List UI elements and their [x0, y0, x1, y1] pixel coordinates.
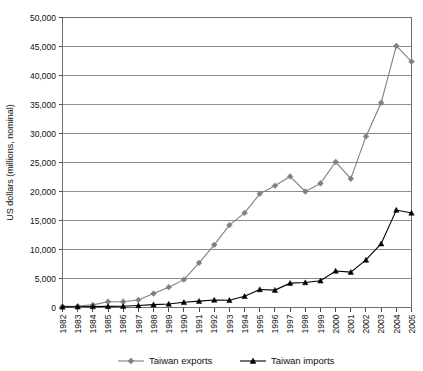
- y-tick-label: 40,000: [30, 71, 56, 81]
- y-tick-label: 45,000: [30, 42, 56, 52]
- x-tick-label: 1992: [209, 314, 219, 333]
- legend-item-exports[interactable]: Taiwan exports: [118, 355, 213, 366]
- series-line: [63, 210, 412, 307]
- y-tick-label: 20,000: [30, 187, 56, 197]
- data-series-group: [60, 43, 415, 309]
- legend-item-imports[interactable]: Taiwan imports: [240, 355, 335, 366]
- legend-label: Taiwan exports: [149, 355, 213, 366]
- x-tick-label: 1986: [118, 314, 128, 333]
- x-tick-label: 1982: [58, 314, 68, 333]
- x-tick-label: 1983: [73, 314, 83, 333]
- data-point-marker: [272, 183, 278, 189]
- x-tick-label: 1998: [300, 314, 310, 333]
- x-tick-label: 1984: [88, 314, 98, 333]
- x-tick-label: 1993: [225, 314, 235, 333]
- y-tick-label: 30,000: [30, 129, 56, 139]
- x-tick-label: 1994: [240, 314, 250, 333]
- series-exports: [60, 43, 415, 309]
- x-tick-label: 2003: [376, 314, 386, 333]
- x-tick-label: 2001: [346, 314, 356, 333]
- x-tick-label: 2004: [392, 314, 402, 333]
- y-tick-label: 0: [51, 303, 56, 313]
- x-tick-label: 2002: [361, 314, 371, 333]
- y-tick-label: 35,000: [30, 100, 56, 110]
- x-tick-label: 1996: [270, 314, 280, 333]
- tick-marks-group: [59, 18, 412, 312]
- series-line: [63, 46, 412, 306]
- gridlines-group: [63, 18, 412, 279]
- y-axis-tick-labels: 05,00010,00015,00020,00025,00030,00035,0…: [30, 13, 56, 313]
- chart-legend: Taiwan exportsTaiwan imports: [118, 355, 335, 366]
- legend-marker-icon: [128, 358, 134, 364]
- y-axis-title-text: US dollars (millions, nominal): [5, 104, 15, 221]
- x-tick-label: 1988: [149, 314, 159, 333]
- data-point-marker: [378, 241, 383, 246]
- y-tick-label: 25,000: [30, 158, 56, 168]
- data-point-marker: [151, 291, 157, 297]
- data-point-marker: [166, 284, 172, 290]
- y-axis-title: US dollars (millions, nominal): [5, 104, 15, 221]
- y-tick-label: 15,000: [30, 216, 56, 226]
- data-point-marker: [242, 293, 247, 298]
- data-point-marker: [363, 134, 369, 140]
- series-imports: [60, 207, 414, 309]
- x-tick-label: 1989: [164, 314, 174, 333]
- data-point-marker: [394, 207, 399, 212]
- y-tick-label: 10,000: [30, 245, 56, 255]
- chart-container: 05,00010,00015,00020,00025,00030,00035,0…: [0, 0, 423, 371]
- data-point-marker: [135, 297, 141, 303]
- y-tick-label: 50,000: [30, 13, 56, 23]
- x-axis-tick-labels: 1982198319841985198619871988198919901991…: [58, 314, 417, 333]
- y-tick-label: 5,000: [35, 274, 57, 284]
- x-tick-label: 1995: [255, 314, 265, 333]
- x-tick-label: 1985: [103, 314, 113, 333]
- line-chart: 05,00010,00015,00020,00025,00030,00035,0…: [0, 0, 423, 371]
- x-tick-label: 1991: [194, 314, 204, 333]
- x-tick-label: 1987: [134, 314, 144, 333]
- x-tick-label: 1990: [179, 314, 189, 333]
- x-tick-label: 2000: [331, 314, 341, 333]
- x-tick-label: 2005: [407, 314, 417, 333]
- legend-label: Taiwan imports: [271, 355, 335, 366]
- x-tick-label: 1999: [316, 314, 326, 333]
- x-tick-label: 1997: [285, 314, 295, 333]
